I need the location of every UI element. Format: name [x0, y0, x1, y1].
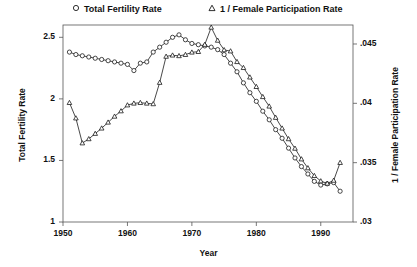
triangle-marker-icon: [138, 100, 143, 104]
series-1: [67, 33, 342, 194]
circle-marker-icon: [248, 91, 252, 95]
triangle-marker-icon: [260, 94, 265, 98]
circle-marker-icon: [125, 62, 129, 66]
circle-marker-icon: [286, 146, 290, 150]
circle-marker-icon: [293, 156, 297, 160]
triangle-marker-icon: [273, 115, 278, 119]
y-axis-right-tick-label: .035: [360, 157, 400, 167]
y-axis-left-tick-label: 1: [21, 216, 55, 226]
y-axis-left-tick-label: 2.5: [21, 31, 55, 41]
triangle-marker-icon: [209, 25, 214, 29]
circle-marker-icon: [80, 54, 84, 58]
plot-area: [0, 0, 417, 267]
triangle-marker-icon: [215, 38, 220, 42]
circle-marker-icon: [67, 50, 71, 54]
triangle-marker-icon: [80, 141, 85, 145]
triangle-marker-icon: [67, 100, 72, 104]
chart-container: Total Fertility Rate 1 / Female Particip…: [0, 0, 417, 267]
circle-marker-icon: [145, 60, 149, 64]
circle-marker-icon: [216, 48, 220, 52]
circle-marker-icon: [151, 50, 155, 54]
y-axis-right-tick-label: .03: [360, 216, 400, 226]
circle-marker-icon: [241, 81, 245, 85]
circle-marker-icon: [280, 136, 284, 140]
circle-marker-icon: [74, 52, 78, 56]
circle-marker-icon: [183, 38, 187, 42]
circle-marker-icon: [338, 189, 342, 193]
x-axis-tick-label: 1980: [236, 228, 276, 238]
y-axis-right-tick-label: .045: [360, 38, 400, 48]
circle-marker-icon: [170, 35, 174, 39]
circle-marker-icon: [119, 61, 123, 65]
triangle-marker-icon: [286, 137, 291, 141]
triangle-marker-icon: [170, 53, 175, 57]
series-2: [67, 25, 342, 185]
x-axis-tick-label: 1960: [107, 228, 147, 238]
circle-marker-icon: [209, 45, 213, 49]
circle-marker-icon: [319, 183, 323, 187]
triangle-marker-icon: [235, 59, 240, 63]
circle-marker-icon: [132, 68, 136, 72]
circle-marker-icon: [196, 43, 200, 47]
circle-marker-icon: [235, 70, 239, 74]
circle-marker-icon: [87, 55, 91, 59]
circle-marker-icon: [106, 59, 110, 63]
triangle-marker-icon: [280, 126, 285, 130]
circle-marker-icon: [274, 128, 278, 132]
circle-marker-icon: [306, 172, 310, 176]
circle-marker-icon: [112, 60, 116, 64]
triangle-marker-icon: [157, 80, 162, 84]
x-axis-tick-label: 1990: [301, 228, 341, 238]
circle-marker-icon: [261, 109, 265, 113]
y-axis-left-tick-label: 1.5: [21, 154, 55, 164]
circle-marker-icon: [228, 61, 232, 65]
circle-marker-icon: [177, 33, 181, 37]
x-axis-tick-label: 1970: [172, 228, 212, 238]
triangle-marker-icon: [74, 116, 79, 120]
triangle-marker-icon: [331, 178, 336, 182]
y-axis-left-tick-label: 2: [21, 93, 55, 103]
circle-marker-icon: [190, 41, 194, 45]
circle-marker-icon: [312, 179, 316, 183]
circle-marker-icon: [100, 57, 104, 61]
x-axis-tick-label: 1950: [43, 228, 83, 238]
triangle-marker-icon: [338, 160, 343, 164]
circle-marker-icon: [158, 45, 162, 49]
y-axis-right-tick-label: .04: [360, 97, 400, 107]
circle-marker-icon: [299, 164, 303, 168]
circle-marker-icon: [93, 56, 97, 60]
circle-marker-icon: [254, 99, 258, 103]
circle-marker-icon: [138, 61, 142, 65]
circle-marker-icon: [222, 52, 226, 56]
triangle-marker-icon: [299, 157, 304, 161]
circle-marker-icon: [267, 118, 271, 122]
circle-marker-icon: [164, 40, 168, 44]
